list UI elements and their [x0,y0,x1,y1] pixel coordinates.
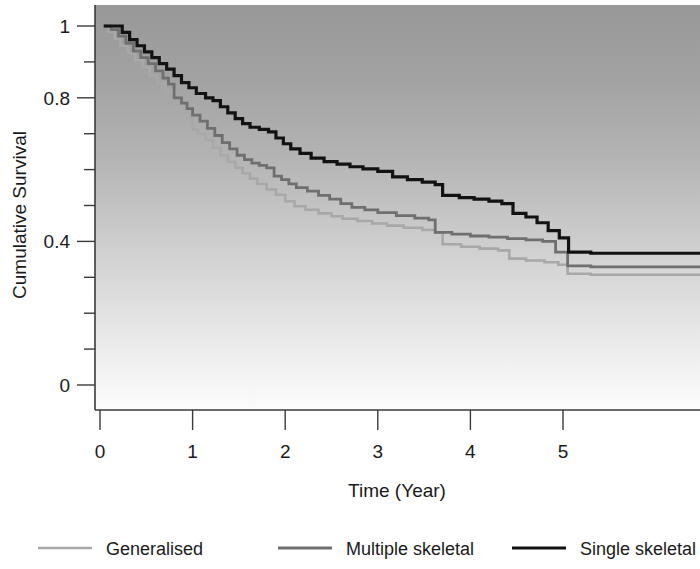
legend-label: Single skeletal [580,539,696,559]
y-tick-label: 0.8 [44,88,70,109]
plot-area-background [95,5,700,410]
y-axis-title: Cumulative Survival [9,131,30,299]
y-tick-label: 0.4 [44,231,71,252]
x-tick-label: 4 [465,441,476,462]
y-tick-label: 0 [59,375,70,396]
y-tick-label: 1 [59,16,70,37]
x-tick-label: 3 [373,441,384,462]
legend-label: Multiple skeletal [346,539,474,559]
legend-label: Generalised [106,539,203,559]
x-tick-label: 2 [280,441,291,462]
x-tick-label: 5 [558,441,569,462]
survival-chart-figure: 00.40.81 012345 Time (Year) Cumulative S… [0,0,700,569]
x-tick-label: 1 [187,441,198,462]
x-axis-title: Time (Year) [348,480,446,501]
chart-legend: GeneralisedMultiple skeletalSingle skele… [38,539,696,559]
x-tick-label: 0 [95,441,106,462]
